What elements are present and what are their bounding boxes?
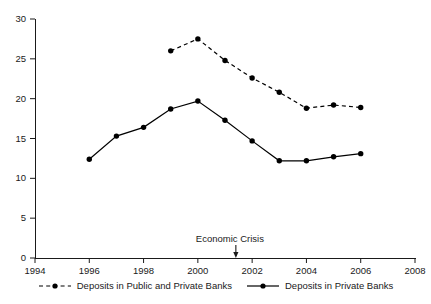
- y-axis-tick-label: 20: [0, 94, 26, 104]
- data-point: [249, 75, 254, 80]
- data-point: [358, 105, 363, 110]
- economic-crisis-annotation-label: Economic Crisis: [0, 234, 431, 244]
- data-point: [358, 151, 363, 156]
- y-axis-tick-label: 0: [0, 253, 26, 263]
- x-axis-tick-label: 2000: [176, 266, 220, 276]
- y-axis-tick-label: 30: [0, 14, 26, 24]
- annotation-arrow-group: [233, 245, 238, 258]
- legend-entry-public-private[interactable]: Deposits in Public and Private Banks: [38, 281, 232, 291]
- x-axis-tick-label: 2008: [393, 266, 431, 276]
- y-axis-tick-label: 15: [0, 134, 26, 144]
- y-axis-tick-label: 10: [0, 173, 26, 183]
- x-axis-tick-label: 1996: [67, 266, 111, 276]
- legend-label-public-private: Deposits in Public and Private Banks: [77, 281, 232, 291]
- annotation-arrow-head: [233, 252, 238, 258]
- data-point: [195, 98, 200, 103]
- data-point: [114, 133, 119, 138]
- data-point: [277, 158, 282, 163]
- data-point: [87, 157, 92, 162]
- y-axis-tick-label: 25: [0, 54, 26, 64]
- axes: [30, 19, 416, 263]
- data-point: [249, 138, 254, 143]
- legend-label-private: Deposits in Private Banks: [285, 281, 393, 291]
- data-point: [168, 106, 173, 111]
- plot-area: [0, 0, 431, 304]
- data-point: [304, 158, 309, 163]
- y-axis-tick-label: 5: [0, 213, 26, 223]
- data-point: [195, 36, 200, 41]
- x-axis-tick-label: 2006: [339, 266, 383, 276]
- series-line-0: [171, 39, 361, 108]
- x-axis-tick-label: 1998: [122, 266, 166, 276]
- x-axis-tick-label: 2004: [284, 266, 328, 276]
- x-axis-tick-label: 1994: [13, 266, 57, 276]
- series-line-1: [89, 101, 360, 161]
- data-point: [331, 154, 336, 159]
- x-axis-tick-label: 2002: [230, 266, 274, 276]
- data-point: [304, 106, 309, 111]
- legend-swatch-solid-icon: [246, 281, 280, 291]
- data-series-group: [87, 36, 364, 163]
- data-point: [222, 58, 227, 63]
- chart-legend: Deposits in Public and Private Banks Dep…: [0, 281, 431, 291]
- data-point: [141, 125, 146, 130]
- legend-swatch-dashed-icon: [38, 281, 72, 291]
- data-point: [222, 117, 227, 122]
- data-point: [277, 90, 282, 95]
- y-axis-ticks: [30, 19, 35, 258]
- data-point: [168, 48, 173, 53]
- data-point: [331, 102, 336, 107]
- legend-entry-private[interactable]: Deposits in Private Banks: [246, 281, 393, 291]
- line-chart: 051015202530 199419961998200020022004200…: [0, 0, 431, 304]
